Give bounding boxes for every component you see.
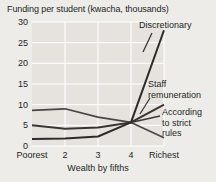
annotation-according-line1: According (162, 107, 202, 118)
y-tick-5: 5 (23, 121, 28, 130)
y-tick-25: 25 (18, 38, 28, 47)
chart-container: Funding per student (kwacha, thousands) … (0, 0, 216, 182)
x-axis-label: Wealth by fifths (32, 163, 164, 173)
x-tick-3: 3 (95, 150, 100, 160)
annotation-according-line2: to strict (162, 118, 202, 129)
y-tick-30: 30 (18, 18, 28, 27)
x-tick-richest: Richest (149, 150, 179, 160)
annotation-discretionary: Discretionary (139, 20, 192, 31)
y-tick-15: 15 (18, 80, 28, 89)
annotation-staff-remuneration-line2: remuneration (148, 90, 201, 101)
annotation-staff-remuneration-line1: Staff (148, 79, 201, 90)
y-tick-10: 10 (18, 100, 28, 109)
x-tick-4: 4 (128, 150, 133, 160)
y-tick-20: 20 (18, 59, 28, 68)
x-tick-poorest: Poorest (16, 150, 47, 160)
annotation-according-line3: rules (162, 128, 202, 139)
chart-title: Funding per student (kwacha, thousands) (7, 4, 169, 14)
plot-svg (32, 22, 164, 146)
x-tick-2: 2 (62, 150, 67, 160)
annotation-discretionary-label: Discretionary (139, 20, 192, 30)
annotation-according-to-strict-rules: According to strict rules (162, 107, 202, 139)
plot-area: 30 25 20 15 10 5 0 Poorest 2 3 4 Richest… (32, 22, 164, 146)
annotation-staff-remuneration: Staff remuneration (148, 79, 201, 100)
